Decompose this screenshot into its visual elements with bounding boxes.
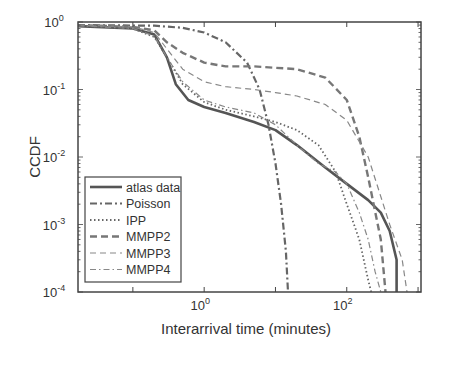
- legend-label: MMPP2: [126, 230, 171, 244]
- legend-label: MMPP3: [126, 247, 171, 261]
- y-tick-label: 10-2: [43, 148, 65, 165]
- x-tick-label: 102: [333, 296, 352, 313]
- y-tick-label: 100: [44, 13, 63, 30]
- x-axis-title: Interarrival time (minutes): [161, 320, 331, 337]
- legend-label: atlas data: [126, 181, 180, 195]
- y-tick-label: 10-3: [43, 216, 65, 233]
- legend: atlas dataPoissonIPPMMPP2MMPP3MMPP4: [85, 177, 181, 282]
- y-axis-title: CCDF: [26, 136, 43, 178]
- y-tick-label: 10-4: [43, 283, 65, 300]
- legend-label: MMPP4: [126, 263, 171, 277]
- y-tick-label: 10-1: [43, 81, 65, 98]
- legend-label: Poisson: [126, 197, 171, 211]
- x-tick-label: 100: [190, 296, 209, 313]
- legend-label: IPP: [126, 214, 146, 228]
- ccdf-chart: 10010210010-110-210-310-4 Interarrival t…: [0, 0, 449, 365]
